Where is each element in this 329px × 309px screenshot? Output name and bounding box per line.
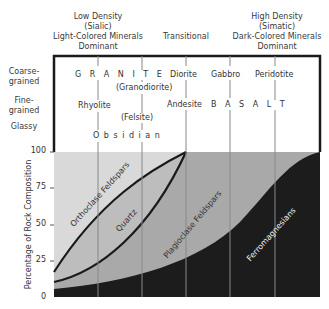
rock-granodiorite: (Granodiorite) xyxy=(115,83,173,93)
rock-basalt: B A S A L T xyxy=(210,100,289,110)
y-axis-ticks xyxy=(50,152,54,261)
rock-andesite: Andesite xyxy=(166,100,203,110)
rock-felsite: (Felsite) xyxy=(120,113,154,123)
rock-rhyolite: Rhyolite xyxy=(77,101,112,111)
rock-obsidian: O b s i d i a n xyxy=(92,131,162,141)
rock-peridotite: Peridotite xyxy=(254,70,294,80)
rock-gabbro: Gabbro xyxy=(210,70,241,80)
rock-composition-diagram xyxy=(0,0,329,309)
y-axis-label: Percentage of Rock Composition xyxy=(24,150,33,300)
rock-granite: G R A N I T E xyxy=(74,70,166,80)
rock-diorite: Diorite xyxy=(169,70,198,80)
